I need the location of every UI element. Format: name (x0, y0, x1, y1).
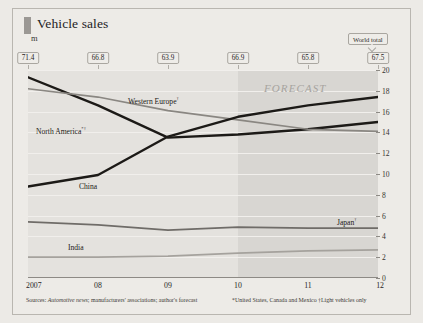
y-axis-tick-label: 8 (382, 190, 398, 199)
y-axis-tick (376, 70, 380, 71)
series-label-footnote-marker: † (354, 217, 356, 222)
series-label-text: Western Europe (128, 97, 177, 106)
series-label-text: North America (36, 127, 81, 136)
y-axis-tick-label: 0 (382, 274, 398, 283)
source-publication: Automotive news (48, 297, 88, 303)
y-axis-tick (376, 153, 380, 154)
world-total-tick (378, 65, 379, 69)
x-axis-tick-label: 08 (94, 281, 102, 290)
series-label-footnote-marker: *† (81, 126, 86, 131)
title-accent-bar (24, 17, 31, 34)
page-title: Vehicle sales (37, 16, 108, 31)
series-label-text: India (68, 243, 84, 252)
y-axis-tick-label: 6 (382, 211, 398, 220)
series-label-footnote-marker: † (177, 96, 179, 101)
source-rest: ; manufacturers' associations; author's … (88, 297, 197, 303)
source-note: Sources: Automotive news; manufacturers'… (26, 297, 197, 303)
world-total-callout: World total (348, 33, 388, 45)
series-label-western-europe: Western Europe† (128, 96, 179, 106)
y-axis-tick (376, 132, 380, 133)
y-axis-tick (376, 236, 380, 237)
series-line (28, 89, 378, 132)
world-total-value: 71.4 (17, 52, 39, 64)
world-total-values-row: 71.466.863.966.965.867.5 (24, 52, 399, 66)
y-axis-tick (376, 112, 380, 113)
y-axis-tick-label: 12 (382, 149, 398, 158)
y-axis-tick-label: 14 (382, 128, 398, 137)
y-axis-tick (376, 174, 380, 175)
world-total-value: 65.8 (297, 52, 319, 64)
series-label-japan: Japan† (337, 217, 357, 227)
y-axis-tick-label: 4 (382, 232, 398, 241)
series-label-text: Japan (337, 218, 354, 227)
x-axis-tick-label: 2007 (26, 281, 42, 290)
series-line (28, 222, 378, 230)
world-total-value: 66.8 (87, 52, 109, 64)
world-total-value: 63.9 (157, 52, 179, 64)
chart-header: Vehicle sales (24, 16, 108, 34)
y-axis-tick (376, 257, 380, 258)
footnote-note: *United States, Canada and Mexico †Light… (232, 297, 366, 303)
y-axis-tick-label: 20 (382, 66, 398, 75)
x-axis-tick-label: 11 (304, 281, 312, 290)
y-axis-tick-label: 16 (382, 107, 398, 116)
series-label-text: China (79, 182, 97, 191)
world-total-value: 66.9 (227, 52, 249, 64)
world-total-value: 67.5 (367, 52, 389, 64)
world-total-tick (168, 65, 169, 69)
series-label-north-america: North America*† (36, 126, 86, 136)
series-label-india: India (68, 243, 84, 252)
x-axis-tick-label: 12 (376, 281, 384, 290)
y-axis-tick (376, 278, 380, 279)
chart-figure: Vehicle sales m World total 71.466.863.9… (0, 0, 423, 323)
world-total-tick (98, 65, 99, 69)
world-total-tick (28, 65, 29, 69)
axis-unit-label: m (31, 33, 38, 43)
y-axis-tick (376, 91, 380, 92)
y-axis-tick-label: 10 (382, 170, 398, 179)
source-prefix: Sources: (26, 297, 48, 303)
series-line (28, 97, 378, 186)
x-axis-tick-label: 10 (234, 281, 242, 290)
y-axis-tick-label: 18 (382, 86, 398, 95)
y-axis-tick-label: 2 (382, 253, 398, 262)
y-axis-tick (376, 195, 380, 196)
y-axis-tick (376, 216, 380, 217)
world-total-tick (238, 65, 239, 69)
world-total-tick (308, 65, 309, 69)
x-axis-tick-label: 09 (164, 281, 172, 290)
series-label-china: China (79, 182, 97, 191)
